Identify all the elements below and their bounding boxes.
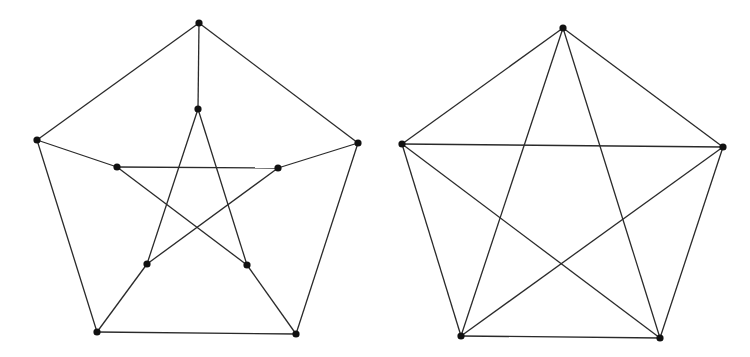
graph-edge [402,144,723,147]
graph-vertex [398,140,405,147]
graph-edge [402,144,461,336]
graph-edge [660,147,723,338]
complete-graph-k5 [0,0,750,357]
graph-vertex [457,332,464,339]
graph-edge [461,336,660,338]
graph-edge [563,28,660,338]
graph-vertex [559,24,566,31]
graph-edge [402,144,660,338]
diagram-canvas [0,0,750,357]
graph-vertex [656,334,663,341]
graph-edge [563,28,723,147]
graph-edge [461,28,563,336]
graph-edge [402,28,563,144]
graph-edge [461,147,723,336]
graph-vertex [719,143,726,150]
